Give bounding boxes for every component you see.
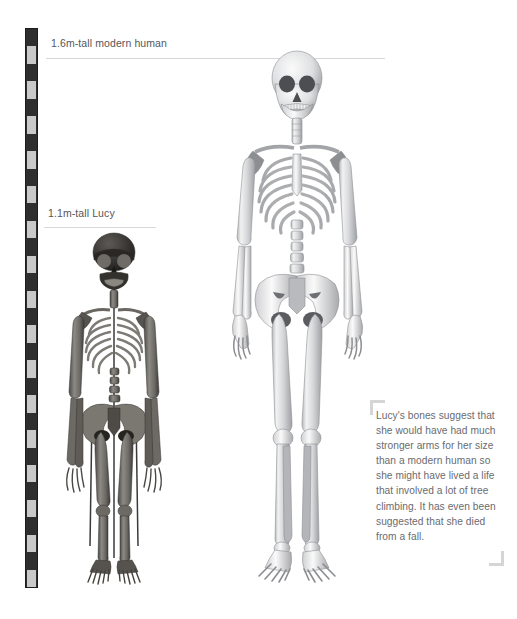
scale-segment <box>27 116 36 133</box>
scale-segment <box>27 169 36 186</box>
scale-segment <box>27 273 36 290</box>
scale-segment <box>27 395 36 412</box>
scale-segment <box>27 81 36 98</box>
scale-segment <box>27 517 36 534</box>
scale-segment <box>27 413 36 430</box>
scale-segment <box>27 360 36 377</box>
scale-segment <box>27 430 36 447</box>
scale-segment <box>27 203 36 220</box>
scale-segment <box>27 500 36 517</box>
scale-segment <box>27 552 36 569</box>
lucy-caption-text: Lucy's bones suggest that she would have… <box>376 408 500 544</box>
scale-segment <box>27 238 36 255</box>
scale-segment <box>27 29 36 46</box>
modern-human-skeleton <box>215 48 380 596</box>
scale-segment <box>27 186 36 203</box>
label-modern-human: 1.6m-tall modern human <box>51 37 167 49</box>
scale-segment <box>27 378 36 395</box>
scale-segment <box>27 535 36 552</box>
illustration-page: 1.6m-tall modern human 1.1m-tall Lucy <box>0 0 517 619</box>
scale-segment <box>27 99 36 116</box>
lucy-skeleton <box>48 228 180 590</box>
scale-segment <box>27 134 36 151</box>
scale-segment <box>27 46 36 63</box>
scale-segment <box>27 291 36 308</box>
scale-segment <box>27 570 36 587</box>
scale-segment <box>27 465 36 482</box>
scale-segment <box>27 448 36 465</box>
scale-segment <box>27 482 36 499</box>
scale-segment <box>27 343 36 360</box>
scale-segment <box>27 221 36 238</box>
scale-segment <box>27 256 36 273</box>
scale-segment <box>27 64 36 81</box>
scale-segment <box>27 151 36 168</box>
label-lucy: 1.1m-tall Lucy <box>48 207 115 219</box>
lucy-caption: Lucy's bones suggest that she would have… <box>376 408 500 544</box>
measuring-scale-bar <box>25 28 38 588</box>
caption-corner-bottom-right <box>489 551 504 566</box>
scale-segment <box>27 308 36 325</box>
scale-segment <box>27 325 36 342</box>
